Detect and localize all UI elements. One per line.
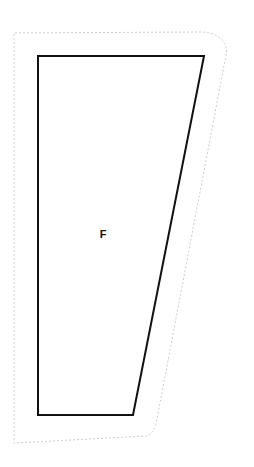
region-label-f: F xyxy=(100,228,107,240)
diagram-svg: F xyxy=(0,0,254,467)
diagram-canvas: F xyxy=(0,0,254,467)
